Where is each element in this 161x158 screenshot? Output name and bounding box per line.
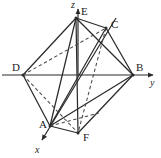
vertex-label-F: F — [83, 132, 89, 143]
axis-label-z: z — [71, 0, 75, 10]
vertex-label-C: C — [111, 19, 118, 30]
vertex-dot-A — [49, 125, 52, 128]
vertex-dot-E — [75, 17, 78, 20]
geometry-figure: A B C D E F z y x — [0, 0, 161, 158]
vertex-label-B: B — [136, 62, 143, 73]
vertex-dot-C — [105, 27, 108, 30]
vertex-dot-B — [132, 74, 135, 77]
edge-D-E — [23, 18, 76, 75]
edge-A-F — [50, 126, 78, 133]
vertex-dot-D — [22, 74, 25, 77]
vertex-dot-F — [77, 132, 80, 135]
figure-canvas — [0, 0, 161, 158]
axis-label-y: y — [150, 78, 154, 88]
vertex-label-E: E — [81, 6, 88, 17]
vertex-label-D: D — [12, 62, 20, 73]
edge-A-E — [50, 18, 76, 126]
axis-label-x: x — [35, 145, 39, 155]
vertex-label-A: A — [39, 119, 47, 130]
